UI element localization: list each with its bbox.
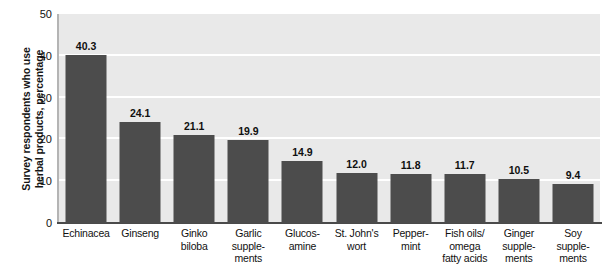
bar[interactable] [444, 174, 485, 223]
x-axis-category-label: Ginko biloba [167, 227, 221, 252]
bar-slot: 9.4 [546, 14, 600, 223]
bar-value-label: 21.1 [184, 121, 204, 132]
y-axis-tick-label: 20 [0, 134, 52, 145]
x-axis-category-label: Garlic supple- ments [221, 227, 275, 265]
y-axis-tick-label: 40 [0, 50, 52, 61]
bar-slot: 14.9 [275, 14, 329, 223]
bar-value-label: 10.5 [509, 165, 529, 176]
bar-slot: 12.0 [330, 14, 384, 223]
bar-value-label: 9.4 [566, 170, 581, 181]
bar-slot: 19.9 [221, 14, 275, 223]
y-axis-tick-label: 10 [0, 176, 52, 187]
y-axis-tick-label: 30 [0, 92, 52, 103]
bar[interactable] [390, 174, 431, 223]
bar-value-label: 11.7 [455, 160, 475, 171]
bar[interactable] [120, 122, 161, 223]
bar-chart: Survey respondents who use herbal produc… [0, 0, 608, 280]
y-axis-tick-label: 50 [0, 9, 52, 20]
bar[interactable] [336, 173, 377, 223]
x-axis-category-label: St. John's wort [330, 227, 384, 252]
bar-slot: 10.5 [492, 14, 546, 223]
y-axis-tick-labels: 50403020100 [0, 0, 52, 280]
bar-value-label: 40.3 [76, 41, 96, 52]
bar-value-label: 24.1 [130, 108, 150, 119]
bar-slot: 11.8 [384, 14, 438, 223]
bar-value-label: 11.8 [401, 160, 421, 171]
bar[interactable] [174, 135, 215, 223]
x-axis-category-labels: EchinaceaGinsengGinko bilobaGarlic suppl… [59, 227, 600, 280]
bar-value-label: 19.9 [238, 126, 258, 137]
bar[interactable] [552, 184, 593, 223]
x-axis-category-label: Pepper- mint [384, 227, 438, 252]
bar[interactable] [228, 140, 269, 223]
x-axis-category-label: Soy supple- ments [546, 227, 600, 265]
bar-slot: 24.1 [113, 14, 167, 223]
bar-slot: 21.1 [167, 14, 221, 223]
x-axis-category-label: Echinacea [59, 227, 113, 240]
bar-value-label: 14.9 [292, 147, 312, 158]
x-axis-category-label: Ginseng [113, 227, 167, 240]
x-axis-category-label: Glucos- amine [275, 227, 329, 252]
bar-value-label: 12.0 [346, 159, 366, 170]
x-axis-category-label: Fish oils/ omega fatty acids [438, 227, 492, 265]
bar-slot: 11.7 [438, 14, 492, 223]
bars-layer: 40.324.121.119.914.912.011.811.710.59.4 [59, 14, 600, 223]
bar-slot: 40.3 [59, 14, 113, 223]
x-axis-category-label: Ginger supple- ments [492, 227, 546, 265]
bar[interactable] [498, 179, 539, 223]
y-axis-tick-label: 0 [0, 218, 52, 229]
bar[interactable] [66, 55, 107, 223]
bar[interactable] [282, 161, 323, 223]
